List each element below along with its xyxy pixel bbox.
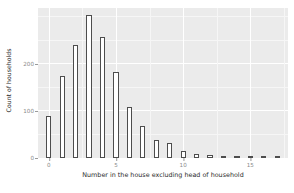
gridline-vertical-minor <box>82 8 83 158</box>
gridline-vertical-minor <box>284 8 285 158</box>
gridline-vertical-major <box>250 8 251 158</box>
gridline-vertical-major <box>183 8 184 158</box>
x-axis-title: Number in the house excluding head of ho… <box>38 171 288 179</box>
y-axis-tick-label: 0 <box>30 155 34 161</box>
x-axis-tick-labels: 051015 <box>38 158 288 170</box>
plot-panel <box>38 8 288 158</box>
gridline-vertical-minor <box>150 8 151 158</box>
bar <box>127 107 132 158</box>
y-axis-tick-label: 200 <box>23 61 34 67</box>
bar <box>154 140 159 158</box>
x-axis-tick-label: 15 <box>247 162 254 168</box>
bar <box>60 76 65 159</box>
bar <box>113 72 118 158</box>
x-axis-tick-label: 0 <box>47 162 51 168</box>
y-axis-title-label: Count of households <box>6 48 13 112</box>
bar <box>86 15 91 158</box>
bar <box>100 37 105 158</box>
bar <box>73 45 78 158</box>
histogram-chart: Count of households 0100200 051015 Numbe… <box>0 0 294 193</box>
bar <box>140 126 145 158</box>
x-axis-tick-label: 5 <box>114 162 118 168</box>
x-axis-tick-label: 10 <box>180 162 187 168</box>
gridline-vertical-minor <box>217 8 218 158</box>
y-axis-tick-labels: 0100200 <box>14 8 38 158</box>
y-axis-tick-label: 100 <box>23 108 34 114</box>
bar <box>167 143 172 158</box>
bar <box>46 116 51 158</box>
